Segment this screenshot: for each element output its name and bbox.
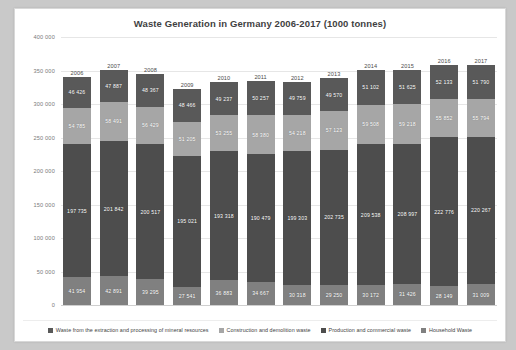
bar-segment[interactable]: 48 466	[173, 89, 201, 121]
bar-segment[interactable]: 55 794	[467, 99, 495, 136]
bar-value-label: 31 426	[399, 291, 416, 297]
bar-segment[interactable]: 46 426	[63, 77, 91, 108]
bar-value-label: 208 997	[398, 211, 418, 217]
bar-segment[interactable]: 58 491	[100, 102, 128, 141]
bar-segment[interactable]: 39 295	[136, 279, 164, 305]
bar-segment[interactable]: 200 517	[136, 144, 164, 278]
bar-segment[interactable]: 222 776	[430, 137, 458, 286]
y-axis-tick-label: 50 000	[37, 269, 55, 275]
bar-group[interactable]: 51 10259 508209 53830 1722014	[357, 37, 385, 305]
bar-value-label: 42 891	[105, 288, 122, 294]
bar-value-label: 193 318	[214, 213, 234, 219]
bar-value-label: 58 491	[105, 118, 122, 124]
y-axis-tick-label: 300 000	[33, 101, 55, 107]
bar-group[interactable]: 49 75954 218199 30330 3182012	[283, 37, 311, 305]
bar-segment[interactable]: 190 479	[247, 154, 275, 282]
bar-segment[interactable]: 54 785	[63, 108, 91, 145]
bar-segment[interactable]: 197 735	[63, 144, 91, 276]
legend-swatch-icon	[48, 328, 53, 333]
bar-segment[interactable]: 55 852	[430, 99, 458, 136]
bar-group[interactable]: 49 23753 255193 31836 8832010	[210, 37, 238, 305]
bar-segment[interactable]: 49 759	[283, 82, 311, 115]
bar-group[interactable]: 50 25758 380190 47934 6672011	[247, 37, 275, 305]
plot-area: 46 42654 785197 73541 954200647 88758 49…	[61, 37, 497, 305]
bar-segment[interactable]: 34 667	[247, 282, 275, 305]
bar-segment[interactable]: 208 997	[393, 144, 421, 284]
bar-value-label: 57 123	[326, 127, 343, 133]
bar-segment[interactable]: 41 954	[63, 277, 91, 305]
bar-value-label: 209 538	[361, 212, 381, 218]
bar-value-label: 52 133	[436, 79, 453, 85]
bar-value-label: 202 735	[324, 214, 344, 220]
bar-segment[interactable]: 220 267	[467, 137, 495, 285]
legend-item[interactable]: Construction and demolition waste	[219, 327, 311, 333]
bar-segment[interactable]: 59 218	[393, 104, 421, 144]
bar-value-label: 51 790	[473, 79, 490, 85]
bar-value-label: 56 429	[142, 122, 159, 128]
bar-group[interactable]: 48 36756 429200 51739 2952008	[136, 37, 164, 305]
bar-segment[interactable]: 28 149	[430, 286, 458, 305]
bar-group[interactable]: 46 42654 785197 73541 9542006	[63, 37, 91, 305]
bar-value-label: 220 267	[471, 207, 491, 213]
bar-segment[interactable]: 209 538	[357, 144, 385, 284]
bar-segment[interactable]: 47 887	[100, 70, 128, 102]
bar-group[interactable]: 48 46651 205195 02127 5412009	[173, 37, 201, 305]
bar-value-label: 54 785	[69, 123, 86, 129]
bar-segment[interactable]: 56 429	[136, 107, 164, 145]
bar-segment[interactable]: 57 123	[320, 111, 348, 149]
bar-value-label: 197 735	[67, 208, 87, 214]
bar-segment[interactable]: 59 508	[357, 105, 385, 145]
bar-segment[interactable]: 42 891	[100, 276, 128, 305]
x-axis-year-label: 2013	[320, 71, 348, 77]
bar-group[interactable]: 47 88758 491201 84242 8912007	[100, 37, 128, 305]
bar-segment[interactable]: 36 883	[210, 280, 238, 305]
bar-group[interactable]: 51 79055 794220 26731 0092017	[467, 37, 495, 305]
bar-segment[interactable]: 27 541	[173, 287, 201, 305]
bar-value-label: 51 205	[179, 136, 196, 142]
bar-segment[interactable]: 193 318	[210, 151, 238, 281]
bar-value-label: 27 541	[179, 293, 196, 299]
bar-value-label: 55 794	[473, 115, 490, 121]
bar-segment[interactable]: 49 570	[320, 78, 348, 111]
bar-segment[interactable]: 53 255	[210, 115, 238, 151]
bar-segment[interactable]: 51 625	[393, 70, 421, 105]
bar-segment[interactable]: 51 205	[173, 122, 201, 156]
legend-swatch-icon	[421, 328, 426, 333]
legend-item[interactable]: Waste from the extraction and processing…	[48, 327, 209, 333]
bar-segment[interactable]: 195 021	[173, 156, 201, 287]
bar-segment[interactable]: 30 318	[283, 285, 311, 305]
bar-segment[interactable]: 31 426	[393, 284, 421, 305]
bar-value-label: 50 257	[252, 95, 269, 101]
x-axis-year-label: 2006	[63, 70, 91, 76]
bar-segment[interactable]: 201 842	[100, 141, 128, 276]
bar-group[interactable]: 49 57057 123202 73529 2502013	[320, 37, 348, 305]
y-axis-tick-label: 200 000	[33, 168, 55, 174]
bar-value-label: 54 218	[289, 130, 306, 136]
bar-segment[interactable]: 31 009	[467, 284, 495, 305]
bar-segment[interactable]: 51 790	[467, 65, 495, 100]
bar-segment[interactable]: 54 218	[283, 115, 311, 151]
legend-item[interactable]: Production and commercial waste	[321, 327, 411, 333]
x-axis-year-label: 2011	[247, 74, 275, 80]
bar-segment[interactable]: 49 237	[210, 82, 238, 115]
bar-segment[interactable]: 51 102	[357, 70, 385, 104]
legend-label: Production and commercial waste	[329, 327, 411, 333]
bar-segment[interactable]: 202 735	[320, 150, 348, 286]
legend-item[interactable]: Household Waste	[421, 327, 472, 333]
bar-value-label: 49 759	[289, 95, 306, 101]
bar-segment[interactable]: 50 257	[247, 81, 275, 115]
bar-value-label: 51 625	[399, 84, 416, 90]
bar-segment[interactable]: 48 367	[136, 74, 164, 106]
bar-segment[interactable]: 58 380	[247, 115, 275, 154]
bar-group[interactable]: 51 62559 218208 99731 4262015	[393, 37, 421, 305]
bar-value-label: 190 479	[251, 215, 271, 221]
legend-label: Waste from the extraction and processing…	[56, 327, 209, 333]
legend-swatch-icon	[219, 328, 224, 333]
bar-value-label: 48 466	[179, 102, 196, 108]
bar-segment[interactable]: 29 250	[320, 285, 348, 305]
bar-segment[interactable]: 52 133	[430, 65, 458, 100]
bar-segment[interactable]: 30 172	[357, 285, 385, 305]
bar-group[interactable]: 52 13355 852222 77628 1492016	[430, 37, 458, 305]
bar-segment[interactable]: 199 303	[283, 151, 311, 285]
bar-value-label: 39 295	[142, 289, 159, 295]
